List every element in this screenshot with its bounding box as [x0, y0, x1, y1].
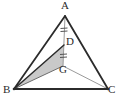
vertex-dot-b [13, 88, 16, 91]
label-d: D [66, 36, 74, 47]
geometry-figure [0, 0, 122, 110]
segment-ag [63, 16, 65, 66]
label-a: A [61, 0, 69, 11]
label-c: C [108, 84, 115, 95]
label-b: B [3, 84, 10, 95]
label-g: G [59, 64, 67, 75]
